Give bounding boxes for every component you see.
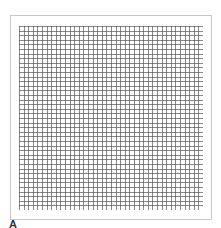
panel-label: A [9, 219, 17, 228]
grid-paper [19, 26, 203, 210]
